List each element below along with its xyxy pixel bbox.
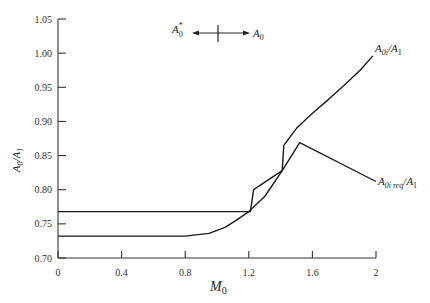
x-tick-label: 0.4 bbox=[115, 267, 128, 278]
x-tick-label: 1.2 bbox=[243, 267, 256, 278]
chart: 0.700.750.800.850.900.951.001.0500.40.81… bbox=[0, 0, 430, 303]
y-tick-label: 0.70 bbox=[35, 253, 53, 264]
direction-annotation: A*0 A0 bbox=[171, 21, 264, 42]
a0-star-label: A*0 bbox=[171, 21, 183, 39]
curve-a0i bbox=[58, 56, 373, 236]
y-tick-label: 0.95 bbox=[35, 82, 53, 93]
x-tick-label: 2 bbox=[374, 267, 379, 278]
y-tick-label: 1.05 bbox=[35, 14, 53, 25]
y-tick-label: 0.80 bbox=[35, 184, 53, 195]
axes bbox=[58, 19, 376, 258]
curve-label-a0i: A0i/A1 bbox=[374, 42, 402, 57]
x-axis-label: M0 bbox=[209, 279, 227, 296]
a0-label: A0 bbox=[252, 27, 264, 42]
x-tick-label: 1.6 bbox=[306, 267, 319, 278]
y-tick-label: 1.00 bbox=[35, 48, 53, 59]
x-tick-label: 0.8 bbox=[179, 267, 192, 278]
y-tick-label: 0.85 bbox=[35, 150, 53, 161]
arrow-right-icon bbox=[243, 31, 250, 36]
y-tick-label: 0.90 bbox=[35, 116, 53, 127]
arrow-left-icon bbox=[192, 31, 199, 36]
x-tick-label: 0 bbox=[56, 267, 61, 278]
y-tick-label: 0.75 bbox=[35, 218, 53, 229]
curve-a0i-req bbox=[58, 143, 376, 212]
curves bbox=[58, 56, 376, 236]
tick-labels: 0.700.750.800.850.900.951.001.0500.40.81… bbox=[35, 14, 379, 279]
curve-label-a0i-req: A0i req/A1 bbox=[377, 175, 417, 190]
y-axis-label: A0/A1 bbox=[10, 148, 25, 174]
